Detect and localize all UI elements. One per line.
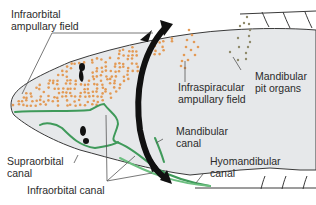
label-line: Supraorbital xyxy=(7,155,64,167)
label-line: Infraorbital canal xyxy=(27,184,105,196)
label-infraorbital-canal: Infraorbital canal xyxy=(27,184,105,196)
label-line: Hyomandibular xyxy=(210,155,281,167)
label-line: Infraspiracular xyxy=(178,81,246,93)
gill-slits-top xyxy=(240,11,316,28)
label-line: Infraorbital xyxy=(11,8,79,20)
label-infraorbital-ampullary-field: Infraorbital ampullary field xyxy=(11,8,79,32)
label-line: canal xyxy=(7,167,64,179)
label-line: canal xyxy=(176,137,228,149)
label-line: ampullary field xyxy=(11,20,79,32)
label-hyomandibular-canal: Hyomandibular canal xyxy=(210,155,281,179)
label-line: Mandibular xyxy=(176,125,228,137)
label-line: ampullary field xyxy=(178,93,246,105)
label-supraorbital-canal: Supraorbital canal xyxy=(7,155,64,179)
label-infraspiracular-ampullary-field: Infraspiracular ampullary field xyxy=(178,81,246,105)
label-mandibular-pit-organs: Mandibular pit organs xyxy=(255,70,307,94)
label-line: Mandibular xyxy=(255,70,307,82)
label-line: pit organs xyxy=(255,82,307,94)
label-mandibular-canal: Mandibular canal xyxy=(176,125,228,149)
label-line: canal xyxy=(210,167,281,179)
